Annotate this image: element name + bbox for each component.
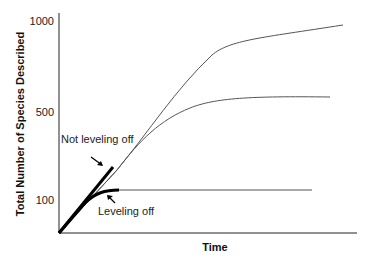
y-axis-label: Total Number of Species Described xyxy=(14,32,26,216)
x-axis-label: Time xyxy=(202,241,227,253)
y-tick-500: 500 xyxy=(36,106,54,118)
annotation-leveling: Leveling off xyxy=(98,205,155,217)
y-tick-1000: 1000 xyxy=(30,15,54,27)
annotation-not-leveling: Not leveling off xyxy=(61,133,135,145)
series-upper-curve xyxy=(59,25,343,233)
species-accumulation-chart: 1000 500 100 Total Number of Species Des… xyxy=(0,0,369,261)
y-tick-100: 100 xyxy=(36,194,54,206)
